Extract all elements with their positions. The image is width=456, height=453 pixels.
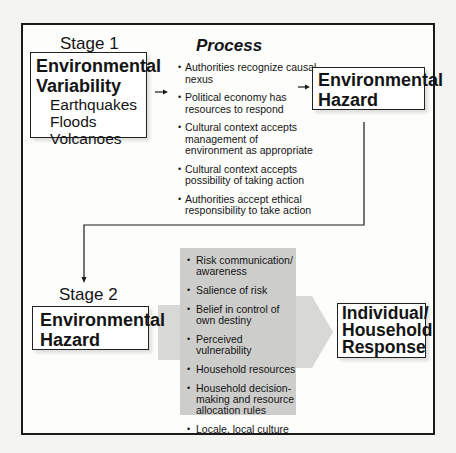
- factor-item: Household resources: [186, 364, 298, 375]
- process-item: Political economy has resources to respo…: [178, 92, 318, 115]
- factor-item: Perceived vulnerability: [186, 334, 298, 356]
- variability-title-line1: Environmental: [36, 56, 146, 76]
- stage2-environmental-hazard-box: Environmental Hazard: [32, 306, 149, 350]
- process-item: Cultural context accepts possibility of …: [178, 164, 318, 187]
- factor-item: Belief in control of own destiny: [186, 304, 298, 326]
- process-title: Process: [196, 36, 262, 56]
- hazard-types-list: Earthquakes Floods Volcanoes: [36, 96, 146, 147]
- process-item: Cultural context accepts management of e…: [178, 122, 318, 157]
- factor-item: Locale, local culture: [186, 424, 298, 435]
- hazard-title-line1: Environmental: [40, 310, 148, 330]
- hazard-title-line2: Hazard: [318, 90, 424, 110]
- factor-item: Salience of risk: [186, 285, 298, 296]
- factor-item: Household decision-making and resource a…: [186, 383, 298, 416]
- hazard-type-item: Floods: [50, 113, 146, 130]
- individual-household-response-box: Individual/ Household Response: [337, 303, 426, 358]
- hazard-title-line2: Hazard: [40, 330, 148, 350]
- stage1-environmental-hazard-box: Environmental Hazard: [312, 67, 425, 110]
- process-item: Authorities accept ethical responsibilit…: [178, 194, 318, 217]
- variability-title-line2: Variability: [36, 76, 146, 96]
- stage2-label: Stage 2: [59, 286, 118, 304]
- process-list: Authorities recognize causal nexus Polit…: [178, 62, 318, 224]
- factors-list: Risk communication/ awareness Salience o…: [186, 255, 298, 443]
- factor-item: Risk communication/ awareness: [186, 255, 298, 277]
- process-item: Authorities recognize causal nexus: [178, 62, 318, 85]
- hazard-type-item: Earthquakes: [50, 96, 146, 113]
- hazard-title-line1: Environmental: [318, 70, 424, 90]
- hazard-type-item: Volcanoes: [50, 130, 146, 147]
- response-title-line3: Response: [342, 339, 425, 356]
- stage1-label: Stage 1: [60, 35, 119, 53]
- environmental-variability-box: Environmental Variability Earthquakes Fl…: [30, 52, 147, 138]
